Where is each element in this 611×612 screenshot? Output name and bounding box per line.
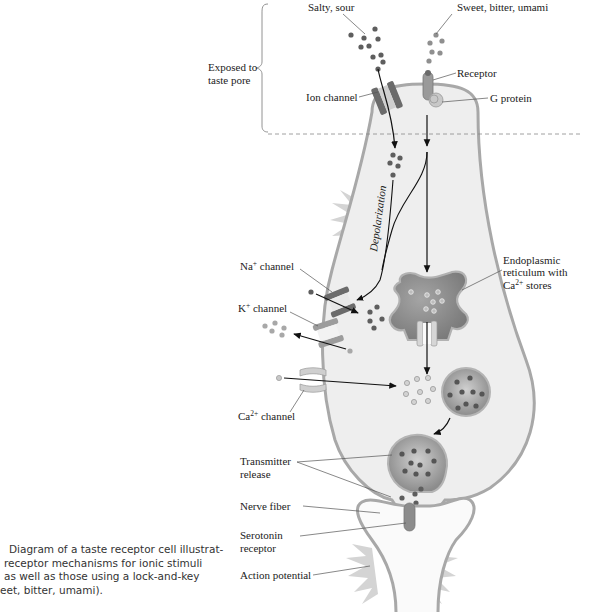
label-transmitter-2: release [240, 468, 271, 480]
serotonin-receptor [404, 503, 415, 531]
label-k-channel: K+ channel [238, 301, 287, 314]
caption-line-4: eet, bitter, umami). [0, 584, 240, 598]
salty-sour-ions [348, 26, 385, 71]
label-receptor: Receptor [457, 67, 497, 79]
exposed-bracket [256, 4, 268, 132]
label-exposed-2: taste pore [208, 74, 251, 86]
label-transmitter-1: Transmitter [240, 455, 291, 467]
caption-line-2: receptor mechanisms for ionic stimuli [0, 557, 240, 571]
label-er-2: reticulum with [503, 266, 568, 278]
label-salty-sour: Salty, sour [308, 1, 355, 13]
label-ca-channel: Ca2+ channel [238, 409, 295, 422]
g-protein [429, 93, 443, 107]
label-exposed-1: Exposed to [208, 61, 258, 73]
transmitter-vesicle-2 [388, 435, 447, 492]
starburst-lower-left [346, 544, 378, 604]
k-ions-outside [262, 320, 286, 337]
label-na-channel: Na+ channel [240, 259, 294, 272]
label-ion-channel: Ion channel [306, 91, 358, 103]
label-nerve-fiber: Nerve fiber [240, 500, 291, 512]
label-er-3: Ca2+ stores [503, 278, 552, 291]
label-sweet-bitter-umami: Sweet, bitter, umami [457, 1, 548, 13]
caption-line-1: Diagram of a taste receptor cell illustr… [0, 543, 240, 557]
label-serotonin-2: receptor [240, 542, 276, 554]
label-action-potential: Action potential [240, 569, 311, 581]
label-g-protein: G protein [490, 92, 532, 104]
label-serotonin-1: Serotonin [240, 529, 283, 541]
caption-line-3: as well as those using a lock-and-key [0, 570, 240, 584]
figure-caption: Diagram of a taste receptor cell illustr… [0, 543, 240, 597]
label-er-1: Endoplasmic [503, 254, 561, 266]
sweet-bitter-umami-molecules [426, 32, 444, 63]
taste-receptor-diagram: Depolarization [0, 0, 611, 612]
